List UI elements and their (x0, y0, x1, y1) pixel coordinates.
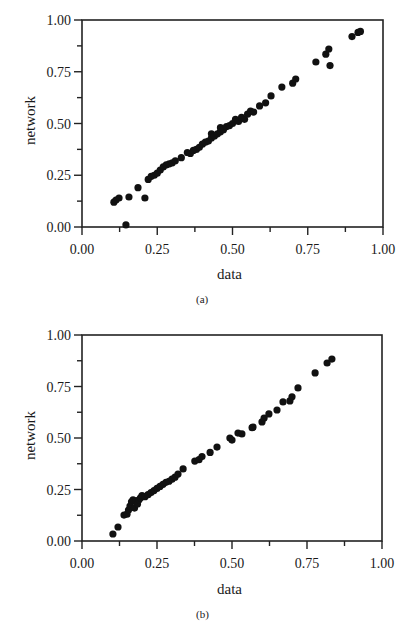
y-axis-label: network (22, 96, 39, 145)
data-point (294, 384, 301, 391)
figure-caption: (b) (196, 608, 209, 620)
y-tick-label: 0.75 (47, 65, 72, 80)
data-point (312, 58, 319, 65)
y-tick-label: 0.50 (47, 431, 72, 446)
data-point (174, 470, 181, 477)
data-point (249, 423, 256, 430)
data-point (178, 154, 185, 161)
data-point (122, 221, 129, 228)
data-point (265, 410, 272, 417)
data-point (262, 99, 269, 106)
data-point (328, 356, 335, 363)
data-point (213, 443, 220, 450)
x-tick-label: 0.25 (145, 556, 170, 571)
y-tick-label: 1.00 (47, 13, 72, 28)
data-point (278, 83, 285, 90)
scatter-plot-a: 0.000.250.500.751.000.000.250.500.751.00 (0, 0, 413, 320)
data-point (198, 453, 205, 460)
data-point (141, 194, 148, 201)
chart-panel-b: 0.000.250.500.751.000.000.250.500.751.00… (0, 315, 413, 635)
data-point (325, 45, 332, 52)
x-tick-label: 1.00 (370, 556, 395, 571)
x-tick-label: 1.00 (371, 242, 396, 257)
y-tick-label: 0.25 (47, 483, 72, 498)
data-point (357, 28, 364, 35)
x-axis-label: data (217, 581, 242, 598)
data-point (267, 92, 274, 99)
data-point (279, 398, 286, 405)
y-tick-label: 1.00 (47, 328, 72, 343)
y-axis-label: network (22, 411, 39, 460)
y-tick-label: 0.50 (47, 117, 72, 132)
data-point (273, 406, 280, 413)
data-point (292, 75, 299, 82)
data-point (348, 33, 355, 40)
x-tick-label: 0.00 (70, 556, 95, 571)
chart-panel-a: 0.000.250.500.751.000.000.250.500.751.00… (0, 0, 413, 320)
y-tick-label: 0.00 (47, 534, 72, 549)
data-point (125, 193, 132, 200)
data-point (312, 369, 319, 376)
x-tick-label: 0.75 (295, 556, 320, 571)
data-point (228, 436, 235, 443)
data-point (238, 430, 245, 437)
y-tick-label: 0.25 (47, 168, 72, 183)
x-tick-label: 0.00 (70, 242, 95, 257)
x-axis-label: data (217, 266, 242, 283)
data-point (114, 523, 121, 530)
scatter-plot-b: 0.000.250.500.751.000.000.250.500.751.00 (0, 315, 413, 635)
data-point (134, 184, 141, 191)
data-point (250, 109, 257, 116)
data-point (288, 393, 295, 400)
data-point (109, 530, 116, 537)
x-tick-label: 0.50 (220, 556, 245, 571)
data-point (207, 449, 214, 456)
data-point (115, 194, 122, 201)
y-tick-label: 0.00 (47, 220, 72, 235)
y-tick-label: 0.75 (47, 380, 72, 395)
data-point (326, 62, 333, 69)
x-tick-label: 0.50 (220, 242, 245, 257)
figure-caption: (a) (196, 293, 208, 305)
x-tick-label: 0.75 (296, 242, 321, 257)
data-point (180, 465, 187, 472)
x-tick-label: 0.25 (145, 242, 170, 257)
